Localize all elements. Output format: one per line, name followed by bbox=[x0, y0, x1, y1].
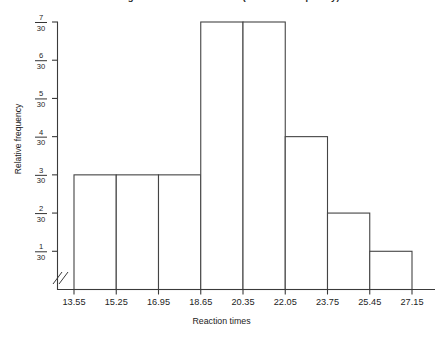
histogram-bars bbox=[74, 22, 412, 290]
histogram-bar bbox=[243, 22, 285, 290]
x-axis-tick-label: 13.55 bbox=[63, 297, 86, 307]
x-axis-tick-label: 16.95 bbox=[147, 297, 170, 307]
x-axis-tick-label: 15.25 bbox=[105, 297, 128, 307]
y-tick-numerator: 3 bbox=[39, 166, 43, 175]
x-axis-tick-label: 22.05 bbox=[274, 297, 297, 307]
y-tick-numerator: 2 bbox=[39, 204, 43, 213]
histogram-bar bbox=[370, 251, 412, 289]
axis-break-marker bbox=[53, 272, 68, 284]
y-axis-ticks: 130230330430530630730 bbox=[35, 13, 58, 262]
x-axis-tick-label: 23.75 bbox=[316, 297, 339, 307]
y-tick-denominator: 30 bbox=[37, 176, 45, 185]
y-tick-numerator: 1 bbox=[39, 242, 43, 251]
x-axis-ticks: 13.5515.2516.9518.6520.3522.0523.7525.45… bbox=[63, 290, 424, 307]
y-tick-denominator: 30 bbox=[37, 253, 45, 262]
y-tick-denominator: 30 bbox=[37, 100, 45, 109]
histogram-bar bbox=[74, 175, 116, 290]
y-tick-numerator: 4 bbox=[39, 128, 43, 137]
y-tick-numerator: 7 bbox=[39, 13, 43, 22]
x-axis-tick-label: 27.15 bbox=[401, 297, 424, 307]
histogram-plot-area: 130230330430530630730 13.5515.2516.9518.… bbox=[0, 0, 443, 339]
y-tick-denominator: 30 bbox=[37, 62, 45, 71]
histogram-bar bbox=[285, 137, 327, 290]
y-tick-numerator: 5 bbox=[39, 89, 43, 98]
histogram-figure: Histogram of Reaction Times (Relative Fr… bbox=[0, 0, 443, 339]
y-tick-denominator: 30 bbox=[37, 24, 45, 33]
histogram-bar bbox=[116, 175, 158, 290]
y-tick-denominator: 30 bbox=[37, 138, 45, 147]
histogram-bar bbox=[159, 175, 201, 290]
x-axis-tick-label: 20.35 bbox=[232, 297, 255, 307]
x-axis-tick-label: 18.65 bbox=[189, 297, 212, 307]
histogram-bar bbox=[201, 22, 243, 290]
x-axis-tick-label: 25.45 bbox=[358, 297, 381, 307]
y-tick-denominator: 30 bbox=[37, 215, 45, 224]
histogram-bar bbox=[328, 213, 370, 289]
y-tick-numerator: 6 bbox=[39, 51, 43, 60]
